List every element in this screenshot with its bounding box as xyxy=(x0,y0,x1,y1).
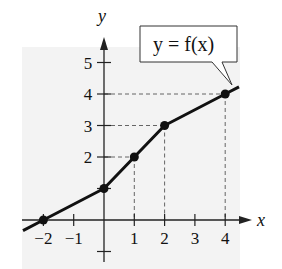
data-point-marker xyxy=(160,121,169,130)
y-tick-label: 5 xyxy=(84,54,93,73)
x-tick-label: −2 xyxy=(34,229,52,248)
function-graph: −2−112342345 x y y = f(x) xyxy=(0,0,282,269)
x-tick-label: 1 xyxy=(130,229,139,248)
x-tick-label: 3 xyxy=(191,229,200,248)
x-tick-label: 2 xyxy=(160,229,169,248)
data-point-marker xyxy=(221,90,230,99)
y-tick-label: 3 xyxy=(84,117,93,136)
y-tick-label: 4 xyxy=(84,85,93,104)
x-axis-arrow-icon xyxy=(239,216,252,224)
y-axis-arrow-icon xyxy=(100,37,108,50)
y-tick-label: 2 xyxy=(84,148,93,167)
x-tick-label: 4 xyxy=(221,229,230,248)
y-axis-label: y xyxy=(96,6,106,26)
data-point-marker xyxy=(130,153,139,162)
x-tick-label: −1 xyxy=(65,229,83,248)
callout-label: y = f(x) xyxy=(153,33,214,56)
data-point-marker xyxy=(39,216,48,225)
x-axis-label: x xyxy=(256,210,265,230)
data-point-marker xyxy=(100,184,109,193)
